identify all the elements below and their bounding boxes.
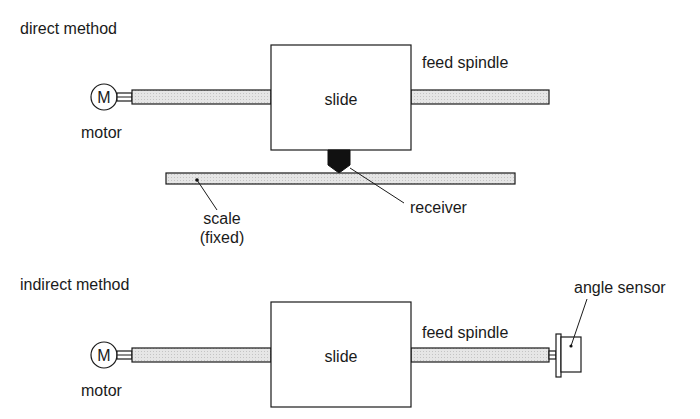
measurement-methods-diagram: direct method M motor slide feed spindle… (0, 0, 700, 419)
feed-spindle-right (411, 90, 549, 104)
feed-spindle-label: feed spindle (422, 54, 508, 71)
feed-spindle-left (132, 90, 271, 104)
direct-method-title: direct method (20, 20, 117, 37)
angle-sensor-icon (549, 334, 581, 377)
indirect-method-section: indirect method M motor slide feed spind… (20, 276, 666, 407)
receiver-label: receiver (410, 199, 468, 216)
motor-icon: M (91, 342, 132, 368)
receiver-icon (328, 150, 350, 173)
slide-label: slide (325, 91, 358, 108)
feed-spindle-label: feed spindle (422, 324, 508, 341)
motor-symbol: M (97, 347, 110, 364)
motor-icon: M (91, 84, 132, 110)
scale-label-line2: (fixed) (200, 229, 244, 246)
scale-bar (166, 173, 515, 184)
feed-spindle-right (411, 348, 549, 362)
motor-symbol: M (97, 89, 110, 106)
scale-label-line1: scale (203, 210, 240, 227)
indirect-method-title: indirect method (20, 276, 129, 293)
direct-method-section: direct method M motor slide feed spindle… (20, 20, 549, 246)
angle-sensor-label: angle sensor (574, 279, 666, 296)
feed-spindle-left (132, 348, 271, 362)
motor-label: motor (81, 382, 123, 399)
diagram-canvas: direct method M motor slide feed spindle… (0, 0, 700, 419)
motor-label: motor (81, 124, 123, 141)
slide-label: slide (325, 348, 358, 365)
